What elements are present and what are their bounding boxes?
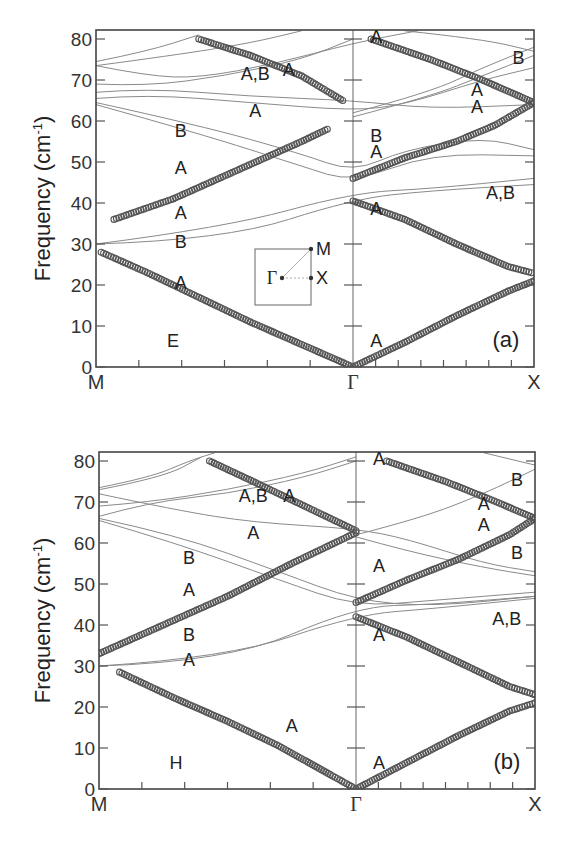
thin-band-line (99, 596, 535, 666)
band-symmetry-label: A (373, 449, 385, 469)
band-symmetry-label: B (512, 48, 524, 68)
band-symmetry-label: A (175, 158, 187, 178)
y-tick-label: 30 (74, 656, 95, 677)
highlighted-band (117, 669, 359, 792)
plot-area (96, 453, 538, 792)
thin-band-line (96, 39, 353, 85)
panel-label: (a) (493, 327, 520, 352)
thin-band-line (99, 520, 535, 604)
y-tick-label: 50 (74, 574, 95, 595)
y-tick-label: 30 (71, 234, 92, 255)
y-tick-label: 80 (71, 29, 92, 50)
x-label-Gamma: Γ (347, 371, 359, 393)
thin-band-line (96, 35, 199, 62)
band-symmetry-label: A (370, 27, 382, 47)
band-symmetry-label: A (373, 753, 385, 773)
y-tick-label: 20 (71, 275, 92, 296)
band-symmetry-label: A (183, 650, 195, 670)
y-tick-label: 70 (74, 492, 95, 513)
y-tick-label: 10 (71, 316, 92, 337)
band-symmetry-label: A (370, 142, 382, 162)
x-label-X: X (527, 371, 540, 393)
band-symmetry-label: B (175, 232, 187, 252)
band-symmetry-label: A (478, 515, 490, 535)
inset-gamma-label: Γ (267, 268, 277, 288)
band-symmetry-label: A (175, 203, 187, 223)
y-tick-label: 60 (71, 111, 92, 132)
y-tick-label: 10 (74, 738, 95, 759)
band-symmetry-label: A,B (239, 486, 268, 506)
band-symmetry-label: A (247, 523, 259, 543)
band-symmetry-label: A (373, 625, 385, 645)
panel-b: 01020304050607080MΓXFrequency (cm-1)A,BA… (30, 449, 542, 815)
highlighted-band (384, 458, 538, 521)
band-symmetry-label: A (370, 199, 382, 219)
highlighted-band (353, 700, 538, 792)
band-symmetry-label: B (183, 548, 195, 568)
band-symmetry-label: A,B (241, 64, 270, 84)
x-label-M: M (91, 793, 108, 815)
brillouin-zone-inset: ΓMX (255, 239, 331, 305)
band-symmetry-label: B (511, 470, 523, 490)
panel-label: (b) (494, 749, 521, 774)
x-label-M: M (88, 371, 105, 393)
thin-band-line (96, 90, 534, 107)
y-tick-label: 50 (71, 152, 92, 173)
highlighted-band (96, 530, 359, 657)
band-symmetry-label: A (478, 494, 490, 514)
x-label-X: X (528, 793, 541, 815)
thin-band-line (99, 494, 535, 572)
band-symmetry-label: A,B (492, 609, 521, 629)
highlighted-band (350, 278, 537, 370)
band-symmetry-label: A (286, 716, 298, 736)
band-symmetry-label: B (511, 543, 523, 563)
inset-m-label: M (316, 239, 331, 259)
band-symmetry-label: A (471, 97, 483, 117)
y-tick-label: 20 (74, 697, 95, 718)
phonon-dispersion-figure: 01020304050607080MΓXFrequency (cm-1)A,BA… (0, 0, 570, 850)
field-region-label: H (170, 753, 183, 773)
band-symmetry-label: B (175, 121, 187, 141)
x-label-Gamma: Γ (350, 793, 362, 815)
thin-band-line (99, 453, 215, 488)
panel-a: 01020304050607080MΓXFrequency (cm-1)A,BA… (30, 27, 541, 393)
band-symmetry-label: B (183, 625, 195, 645)
field-region-label: E (167, 331, 179, 351)
band-symmetry-label: A (183, 580, 195, 600)
band-symmetry-label: A (175, 273, 187, 293)
band-symmetry-label: A (370, 331, 382, 351)
y-tick-label: 60 (74, 533, 95, 554)
thin-band-line (99, 518, 535, 604)
y-axis-label: Frequency (cm-1) (30, 116, 55, 282)
y-tick-label: 40 (71, 193, 92, 214)
thin-band-line (484, 453, 535, 465)
y-tick-label: 40 (74, 615, 95, 636)
axis-frame (99, 452, 535, 789)
band-symmetry-label: A,B (486, 183, 515, 203)
inset-x-label: X (316, 268, 328, 288)
y-tick-label: 80 (74, 451, 95, 472)
band-symmetry-label: A (373, 556, 385, 576)
band-symmetry-label: A (249, 101, 261, 121)
band-symmetry-label: A (283, 60, 295, 80)
y-tick-label: 70 (71, 70, 92, 91)
thin-band-line (99, 598, 535, 666)
band-symmetry-label: A (283, 486, 295, 506)
y-axis-label: Frequency (cm-1) (30, 538, 55, 704)
